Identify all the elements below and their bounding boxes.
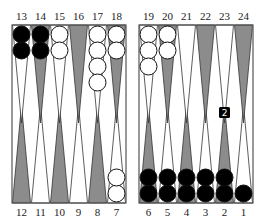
backgammon-board: 131415161718192021222324121110987654321 … [0, 0, 261, 224]
black-checker[interactable] [197, 169, 214, 186]
white-checker[interactable] [89, 74, 106, 91]
point-label: 21 [181, 10, 192, 22]
black-checker[interactable] [13, 42, 30, 59]
point-label: 19 [143, 10, 155, 22]
black-checker[interactable] [159, 169, 176, 186]
point-label: 14 [35, 10, 47, 22]
die-value: 2 [222, 108, 228, 118]
black-checker[interactable] [216, 169, 233, 186]
point-label: 18 [111, 10, 123, 22]
black-checker[interactable] [235, 185, 252, 202]
point-label: 10 [54, 206, 66, 218]
point-label: 23 [219, 10, 231, 22]
black-checker[interactable] [13, 26, 30, 43]
point-label: 24 [238, 10, 250, 22]
white-checker[interactable] [140, 58, 157, 75]
white-checker[interactable] [89, 42, 106, 59]
white-checker[interactable] [108, 42, 125, 59]
point-label: 15 [54, 10, 66, 22]
point-label: 5 [165, 206, 171, 218]
black-checker[interactable] [197, 185, 214, 202]
white-checker[interactable] [89, 58, 106, 75]
white-checker[interactable] [108, 26, 125, 43]
point-label: 13 [16, 10, 28, 22]
white-checker[interactable] [159, 26, 176, 43]
white-checker[interactable] [51, 26, 68, 43]
point-label: 8 [95, 206, 101, 218]
white-checker[interactable] [108, 185, 125, 202]
black-checker[interactable] [32, 42, 49, 59]
black-checker[interactable] [178, 169, 195, 186]
point-label: 2 [222, 206, 228, 218]
point-label: 4 [184, 206, 190, 218]
white-checker[interactable] [140, 42, 157, 59]
black-checker[interactable] [140, 169, 157, 186]
point-label: 11 [35, 206, 46, 218]
point-label: 1 [241, 206, 247, 218]
white-checker[interactable] [140, 26, 157, 43]
black-checker[interactable] [32, 26, 49, 43]
black-checker[interactable] [216, 185, 233, 202]
white-checker[interactable] [108, 169, 125, 186]
point-label: 3 [203, 206, 209, 218]
black-checker[interactable] [140, 185, 157, 202]
die: 2 [219, 107, 230, 118]
black-checker[interactable] [159, 185, 176, 202]
point-label: 9 [76, 206, 82, 218]
white-checker[interactable] [89, 26, 106, 43]
black-checker[interactable] [178, 185, 195, 202]
point-label: 17 [92, 10, 104, 22]
point-label: 12 [16, 206, 27, 218]
point-label: 22 [200, 10, 211, 22]
white-checker[interactable] [51, 42, 68, 59]
point-label: 7 [114, 206, 120, 218]
point-label: 16 [73, 10, 85, 22]
white-checker[interactable] [159, 42, 176, 59]
point-label: 6 [146, 206, 152, 218]
point-label: 20 [162, 10, 174, 22]
